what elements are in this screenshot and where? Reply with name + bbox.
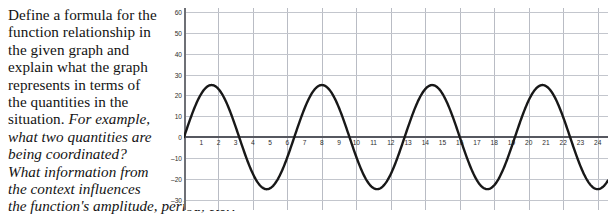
prompt-line-plain-part: situation. [8,110,68,127]
y-axis-tick-label: 20 [160,92,182,99]
y-axis-tick-label: 0 [160,134,182,141]
prompt-paragraph: Define a formula for the function relati… [8,6,184,197]
y-axis-tick-label: 30 [160,71,182,78]
y-axis-tick-label: 40 [160,50,182,57]
y-axis-tick-label: –30 [160,196,182,203]
y-axis-tick-label: 60 [160,9,182,16]
prompt-line-italic-part: For example, [68,110,150,127]
sine-curve-svg [184,8,608,210]
prompt-line: function relationship in [8,23,184,40]
prompt-line: What information from [8,163,184,180]
sine-curve-path [184,85,608,189]
prompt-line: represents in terms of [8,76,184,93]
prompt-line: the context influences [8,180,184,197]
prompt-line: Define a formula for the [8,6,184,23]
prompt-line-mixed: situation. For example, [8,110,184,127]
plot-area: 123456789101112131415161718192021222324 [184,8,608,210]
sinusoid-graph-figure: 6050403020100–10–20–30 12345678910111213… [160,8,611,210]
prompt-line: explain what the graph [8,58,184,75]
y-axis-tick-label: –20 [160,175,182,182]
y-axis-tick-labels: 6050403020100–10–20–30 [160,8,182,210]
prompt-line: the given graph and [8,41,184,58]
prompt-line: what two quantities are [8,128,184,145]
prompt-line: the quantities in the [8,93,184,110]
y-axis-tick-label: 10 [160,113,182,120]
y-axis-tick-label: –10 [160,154,182,161]
prompt-line: being coordinated? [8,145,184,162]
y-axis-tick-label: 50 [160,29,182,36]
